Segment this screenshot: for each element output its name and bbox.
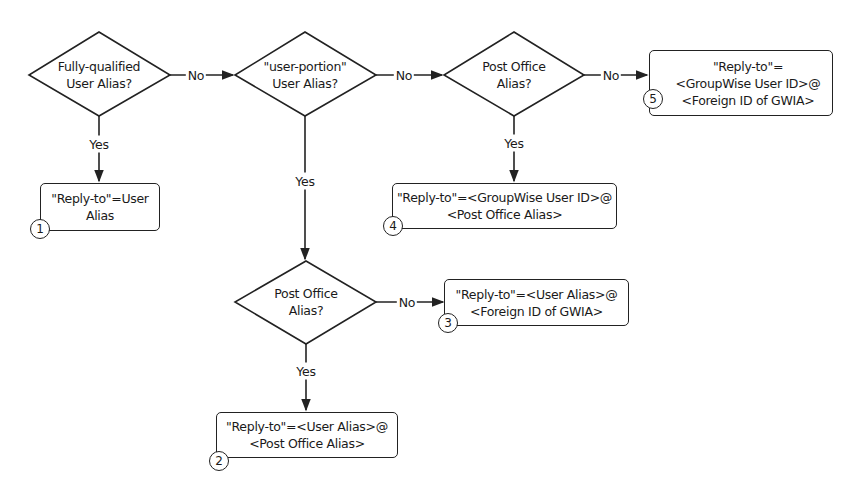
outcome-box-4: "Reply-to"=<GroupWise User ID>@ <Post Of… <box>392 183 617 229</box>
edge-label-yes: Yes <box>87 136 110 153</box>
outcome-label-3: "Reply-to"=<User Alias>@ <Foreign ID of … <box>445 286 628 320</box>
outcome-box-3: "Reply-to"=<User Alias>@ <Foreign ID of … <box>444 279 629 326</box>
edge-label-yes: Yes <box>293 173 316 190</box>
outcome-label-4: "Reply-to"=<GroupWise User ID>@ <Post Of… <box>393 189 616 223</box>
edge-label-yes: Yes <box>502 135 525 152</box>
edge-label-no: No <box>601 67 621 84</box>
decision-post-office-alias-top: Post Office Alias? <box>482 58 546 92</box>
outcome-label-1: "Reply-to"=User Alias <box>41 190 159 224</box>
decision-user-portion-user-alias: "user-portion" User Alias? <box>264 58 347 92</box>
decision-post-office-alias-bottom: Post Office Alias? <box>274 285 338 319</box>
outcome-box-5: "Reply-to"= <GroupWise User ID>@ <Foreig… <box>649 50 833 116</box>
outcome-label-5: "Reply-to"= <GroupWise User ID>@ <Foreig… <box>650 58 832 109</box>
outcome-number-badge-2: 2 <box>209 451 229 471</box>
edge-label-no: No <box>186 67 206 84</box>
outcome-label-2: "Reply-to"=<User Alias>@ <Post Office Al… <box>217 418 397 452</box>
outcome-box-2: "Reply-to"=<User Alias>@ <Post Office Al… <box>216 412 398 458</box>
outcome-number-badge-4: 4 <box>383 216 403 236</box>
edge-label-no: No <box>394 67 414 84</box>
outcome-number-badge-5: 5 <box>643 89 663 109</box>
outcome-number-badge-3: 3 <box>438 313 458 333</box>
edge-label-no: No <box>397 294 417 311</box>
outcome-box-1: "Reply-to"=User Alias <box>40 183 160 231</box>
edge-label-yes: Yes <box>294 363 317 380</box>
decision-fully-qualified-user-alias: Fully-qualified User Alias? <box>58 58 141 92</box>
outcome-number-badge-1: 1 <box>30 219 50 239</box>
